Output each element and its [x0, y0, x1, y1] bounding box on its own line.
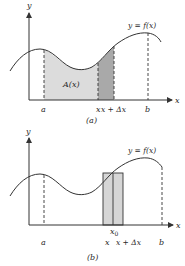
tick-label-x-b: x — [105, 238, 110, 247]
tick-label-b-b: b — [159, 238, 164, 247]
x-axis-label: x — [175, 96, 180, 105]
curve-label-b: y = f(x) — [127, 146, 156, 155]
x-axis-label-b: x — [176, 221, 181, 230]
figure: y x y = f(x) A(x) a x x + Δx b (a) y x y… — [0, 0, 185, 266]
curve-f-b — [10, 158, 162, 196]
curve-f — [10, 33, 161, 71]
x0-subscript: 0 — [115, 230, 119, 237]
panel-b: y x y = f(x) x0 a x x + Δx b (b) — [10, 127, 181, 262]
tick-label-a-b: a — [41, 238, 46, 247]
area-label: A(x) — [62, 80, 80, 89]
tick-label-x-plus-dx-b: x + Δx — [116, 238, 142, 247]
panel-a: y x y = f(x) A(x) a x x + Δx b (a) — [10, 1, 180, 125]
y-axis-label-b: y — [25, 127, 31, 136]
x0-label: x0 — [110, 227, 119, 237]
y-axis-label: y — [26, 1, 32, 10]
tick-label-b: b — [145, 105, 150, 114]
caption-a: (a) — [86, 116, 97, 125]
tick-label-x-plus-dx: x + Δx — [101, 105, 127, 114]
area-a-to-x — [44, 50, 98, 100]
tick-label-a: a — [41, 105, 46, 114]
curve-label: y = f(x) — [127, 21, 156, 30]
caption-b: (b) — [87, 253, 98, 262]
